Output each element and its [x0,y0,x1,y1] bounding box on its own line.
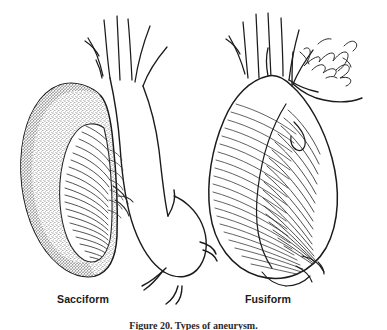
descending-aorta-left [142,190,217,304]
label-sacciform: Sacciform [57,293,109,305]
illustration-figure: Sacciform Fusiform Figure 20. Types of a… [0,0,387,330]
artist-signature [300,39,357,86]
arch-branches-left [85,16,167,86]
sacciform-figure [21,16,217,304]
figure-caption: Figure 20. Types of aneurysm. [0,319,387,330]
label-fusiform: Fusiform [245,293,291,305]
arch-branches-right [226,13,313,84]
fusiform-figure [209,13,362,286]
aneurysm-illustration-canvas [0,0,387,330]
fusiform-sac [209,48,338,286]
